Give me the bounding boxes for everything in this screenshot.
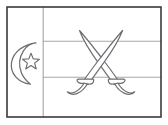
image-canvas: Flag Outline Drawing Black and white lin…: [0, 0, 168, 125]
flag-drawing: [0, 0, 168, 125]
